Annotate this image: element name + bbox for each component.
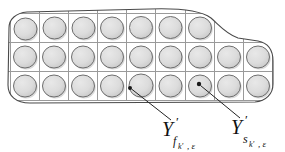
label-y-prime-f: Y ′ f k′ , ε: [162, 114, 196, 151]
label-s-prime: ′: [245, 112, 248, 127]
label-s-epsilon: , ε: [258, 139, 267, 149]
disc-row-3: [14, 74, 271, 98]
label-y-prime-s: Y ′ s k′ , ε: [231, 112, 267, 149]
label-f-prime: ′: [176, 114, 179, 129]
label-f-epsilon: , ε: [187, 141, 196, 151]
diagram-canvas: Y ′ f k′ , ε Y ′ s k′ , ε: [0, 0, 285, 152]
label-f-subsubscript: k′: [178, 142, 184, 151]
label-s-subsubscript: k′: [249, 140, 255, 149]
figure-container: Y ′ f k′ , ε Y ′ s k′ , ε: [0, 0, 285, 152]
disc-row-2: [14, 46, 271, 69]
label-s-subscript: s: [243, 132, 248, 146]
